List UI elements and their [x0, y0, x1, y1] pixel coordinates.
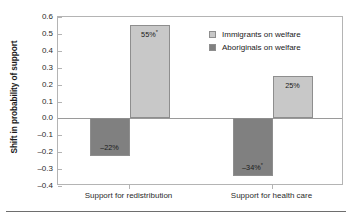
bar-aboriginals[interactable]: –22%	[90, 118, 130, 155]
x-axis-category-label: Support for health care	[192, 191, 352, 200]
x-axis-tick-mark	[272, 185, 273, 189]
y-axis-tick-label: 0.0	[27, 113, 53, 122]
legend-label-immigrants: Immigrants on welfare	[222, 30, 301, 39]
y-axis-tick-mark	[58, 135, 62, 136]
y-axis-tick-label: 0.4	[27, 45, 53, 54]
chart-figure: Shift in probability of support 0.60.50.…	[0, 0, 352, 220]
y-axis-tick-label: –0.4	[27, 181, 53, 190]
bar-value-label: 55%*	[131, 30, 169, 39]
y-axis-tick-label: 0.1	[27, 96, 53, 105]
legend-swatch-immigrants-icon	[209, 31, 216, 38]
y-axis-tick-mark	[58, 68, 62, 69]
y-axis-tick-mark	[58, 102, 62, 103]
footer-rule	[6, 211, 346, 212]
y-axis-tick-mark	[58, 169, 62, 170]
legend-label-aboriginals: Aboriginals on welfare	[222, 43, 301, 52]
y-axis-tick-label: 0.6	[27, 12, 53, 21]
y-axis-tick-mark	[58, 34, 62, 35]
legend-item-immigrants[interactable]: Immigrants on welfare	[209, 28, 301, 41]
bar-value-label: 25%	[274, 81, 312, 90]
y-axis-title: Shift in probability of support	[9, 9, 19, 185]
y-axis-tick-label: 0.5	[27, 28, 53, 37]
plot-area: –22%55%*–34%*25% Immigrants on welfare A…	[57, 16, 343, 185]
y-axis-tick-mark	[58, 186, 62, 187]
bar-value-label: –22%	[91, 143, 129, 152]
bar-aboriginals[interactable]: –34%*	[233, 118, 273, 175]
x-axis-tick-mark	[129, 185, 130, 189]
y-axis-tick-mark	[58, 152, 62, 153]
y-axis-tick-mark	[58, 51, 62, 52]
y-axis-tick-mark	[58, 85, 62, 86]
y-axis-tick-label: –0.3	[27, 164, 53, 173]
chart-legend: Immigrants on welfare Aboriginals on wel…	[209, 28, 301, 54]
y-axis-tick-label: 0.3	[27, 62, 53, 71]
y-axis-tick-mark	[58, 17, 62, 18]
legend-swatch-aboriginals-icon	[209, 44, 216, 51]
y-axis-tick-label: 0.2	[27, 79, 53, 88]
x-axis-category-label: Support for redistribution	[49, 191, 209, 200]
bar-value-label: –34%*	[234, 163, 272, 172]
y-axis-tick-label: –0.1	[27, 130, 53, 139]
y-axis-tick-label: –0.2	[27, 147, 53, 156]
bar-immigrants[interactable]: 55%*	[130, 25, 170, 118]
legend-item-aboriginals[interactable]: Aboriginals on welfare	[209, 41, 301, 54]
bar-immigrants[interactable]: 25%	[273, 76, 313, 118]
